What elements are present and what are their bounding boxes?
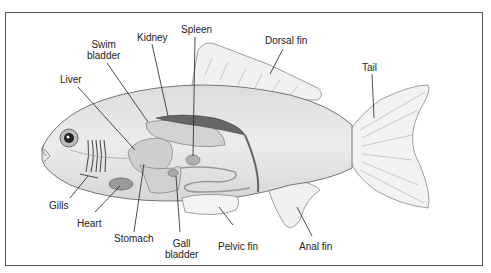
tail-fin bbox=[350, 85, 429, 208]
label-spleen: Spleen bbox=[181, 24, 212, 35]
label-gall-bladder: Gall bladder bbox=[165, 238, 198, 260]
spleen-organ bbox=[186, 155, 200, 165]
label-tail: Tail bbox=[362, 62, 377, 73]
fish-illustration bbox=[0, 0, 491, 273]
label-swim-line2: bladder bbox=[87, 50, 120, 61]
label-stomach: Stomach bbox=[114, 233, 153, 244]
pelvic-fin bbox=[182, 194, 239, 214]
label-gall-line2: bladder bbox=[165, 249, 198, 260]
gall-bladder-organ bbox=[168, 170, 178, 177]
label-swim-line1: Swim bbox=[87, 39, 120, 50]
label-pelvic-fin: Pelvic fin bbox=[218, 241, 258, 252]
label-gall-line1: Gall bbox=[165, 238, 198, 249]
label-swim-bladder: Swim bladder bbox=[87, 39, 120, 61]
label-dorsal-fin: Dorsal fin bbox=[265, 35, 307, 46]
heart-organ bbox=[109, 178, 133, 190]
label-anal-fin: Anal fin bbox=[299, 241, 332, 252]
label-liver: Liver bbox=[60, 74, 82, 85]
label-gills: Gills bbox=[49, 200, 68, 211]
label-heart: Heart bbox=[77, 218, 101, 229]
label-kidney: Kidney bbox=[137, 32, 168, 43]
